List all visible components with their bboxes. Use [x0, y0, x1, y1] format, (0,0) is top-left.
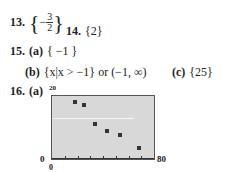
x-tick [78, 156, 79, 159]
x-max-label: 80 [157, 154, 166, 164]
answer-value: { −1 } [47, 44, 77, 58]
data-point [93, 122, 97, 126]
y-max-label: 20 [49, 84, 56, 92]
x-tick [90, 156, 91, 159]
x-tick [129, 156, 130, 159]
open-brace: { [29, 10, 40, 35]
answer-15c: (c) {25} [172, 62, 213, 80]
minus-sign: − [40, 15, 47, 29]
part-label: (a) [29, 44, 43, 58]
data-point [82, 103, 86, 107]
x-tick [141, 156, 142, 159]
data-point [105, 129, 109, 133]
glare-line [52, 118, 134, 119]
data-point [73, 100, 77, 104]
answer-value: {x|x > −1} or (−1, ∞) [44, 65, 147, 79]
x-tick [116, 156, 117, 159]
problem-number: 15. [10, 44, 25, 58]
y-min-label: 0 [40, 154, 45, 164]
answer-14: 14. {2} [66, 21, 103, 39]
answer-13: 13. {−32} [10, 12, 64, 33]
answer-15a: 15. (a) { −1 } [10, 41, 77, 59]
x-tick [103, 156, 104, 159]
data-point [137, 146, 141, 150]
x-min-label: 0 [49, 163, 53, 172]
problem-number: 13. [10, 15, 25, 29]
answer-15b: (b) {x|x > −1} or (−1, ∞) [25, 62, 146, 80]
answer-16a: 16. (a) [10, 81, 43, 99]
x-tick [65, 156, 66, 159]
problem-number: 16. [10, 84, 25, 98]
part-label: (a) [29, 84, 43, 98]
answer-value: {2} [85, 24, 103, 38]
part-label: (b) [25, 65, 40, 79]
problem-number: 14. [66, 24, 81, 38]
data-point [118, 133, 122, 137]
answer-value: {25} [189, 65, 213, 79]
close-brace: } [53, 10, 64, 35]
scatter-plot [51, 95, 155, 160]
part-label: (c) [172, 65, 185, 79]
